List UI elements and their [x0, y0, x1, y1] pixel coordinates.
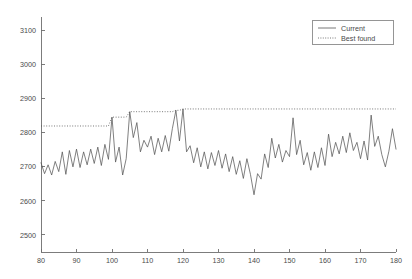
y-tick-label: 2700 [20, 162, 36, 171]
x-tick-label: 110 [142, 256, 153, 265]
y-tick-label: 3100 [20, 26, 36, 35]
x-tick-label: 160 [319, 256, 331, 265]
y-tick-label: 2800 [20, 128, 36, 137]
series-line-best-found [41, 109, 396, 126]
x-tick-label: 120 [177, 256, 189, 265]
y-tick-label: 3000 [20, 60, 36, 69]
x-tick-label: 130 [213, 256, 225, 265]
chart-container: 8090100110120130140150160170180 25002600… [0, 0, 412, 279]
y-tick-label: 2500 [20, 231, 36, 240]
series-line-current [41, 109, 396, 195]
y-tick-label: 2900 [20, 94, 36, 103]
chart-legend: CurrentBest found [312, 20, 393, 44]
legend-label: Current [341, 24, 365, 33]
x-tick-label: 140 [248, 256, 260, 265]
line-chart: 8090100110120130140150160170180 25002600… [0, 0, 412, 279]
data-series [41, 109, 396, 195]
x-tick-label: 150 [284, 256, 296, 265]
y-tick-label: 2600 [20, 197, 36, 206]
axis-spines [41, 17, 396, 252]
x-tick-label: 80 [37, 256, 45, 265]
x-tick-label: 90 [73, 256, 81, 265]
x-tick-label: 170 [355, 256, 367, 265]
x-tick-label: 100 [106, 256, 118, 265]
x-axis-tick-labels: 8090100110120130140150160170180 [37, 249, 402, 266]
x-tick-label: 180 [390, 256, 402, 265]
axes [41, 17, 396, 252]
legend-label: Best found [341, 34, 375, 43]
